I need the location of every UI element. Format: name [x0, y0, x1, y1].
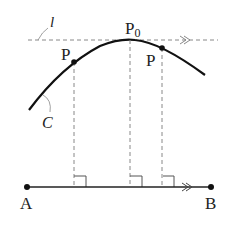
label-p-right: P [146, 51, 155, 70]
label-p-left: P [61, 45, 70, 64]
label-l-leader [38, 28, 48, 40]
label-a: A [20, 194, 33, 213]
diagram-canvas: l C P P P0 A B [0, 0, 231, 227]
label-p0-main: P [125, 19, 134, 38]
label-l: l [50, 14, 54, 30]
point-a [24, 184, 30, 190]
label-b: B [205, 194, 216, 213]
point-p-right [159, 45, 165, 51]
point-b [208, 184, 214, 190]
label-p0-subscript: 0 [134, 26, 140, 40]
right-angle-mark-right [163, 176, 174, 187]
right-angle-mark-p0 [130, 176, 142, 187]
right-angle-mark-left [74, 176, 86, 187]
curve-c [29, 40, 205, 110]
label-p0: P0 [125, 19, 140, 40]
label-c: C [42, 114, 53, 131]
point-p-left [71, 59, 77, 65]
label-c-leader [43, 95, 50, 112]
